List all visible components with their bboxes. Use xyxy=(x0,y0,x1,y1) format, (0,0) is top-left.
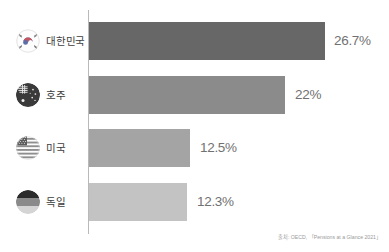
country-label-south-korea: 대한민국 xyxy=(46,21,85,61)
bar-germany xyxy=(89,183,187,221)
germany-flag-icon xyxy=(16,190,40,214)
chart-row-germany: 독일 12.3% xyxy=(0,182,389,222)
value-label-south-korea: 26.7% xyxy=(334,21,371,61)
bar-united-states xyxy=(89,129,190,167)
value-label-germany: 12.3% xyxy=(197,182,234,222)
south-korea-flag-icon xyxy=(16,29,40,53)
bar-chart: 대한민국 26.7% xyxy=(0,0,389,252)
country-label-united-states: 미국 xyxy=(46,128,66,168)
australia-flag-icon xyxy=(16,83,40,107)
country-label-germany: 독일 xyxy=(46,182,66,222)
value-label-australia: 22% xyxy=(295,75,321,115)
bar-south-korea xyxy=(89,22,325,60)
chart-row-australia: 호주 22% xyxy=(0,75,389,115)
chart-row-united-states: 미국 12.5% xyxy=(0,128,389,168)
chart-row-south-korea: 대한민국 26.7% xyxy=(0,21,389,61)
country-label-australia: 호주 xyxy=(46,75,66,115)
bar-australia xyxy=(89,76,285,114)
source-note: 출처: OECD, 「Pensions at a Glance 2021」 xyxy=(278,233,381,240)
united-states-flag-icon xyxy=(16,136,40,160)
value-label-united-states: 12.5% xyxy=(200,128,237,168)
